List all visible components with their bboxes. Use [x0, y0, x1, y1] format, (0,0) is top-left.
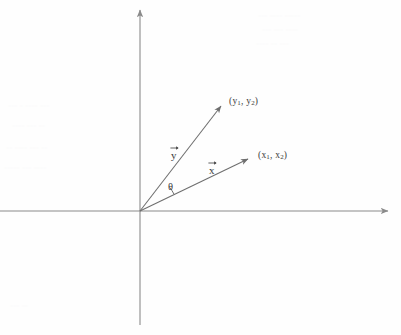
point-label-y: (y1, y2): [229, 96, 258, 107]
paren-close: ): [255, 96, 258, 106]
point-label-x: (x1, x2): [258, 150, 287, 161]
vector-y-glyph: y: [171, 149, 177, 161]
vector-y-label: y: [171, 147, 177, 161]
vector-x-glyph: x: [209, 164, 215, 176]
vector-arrow-accent-icon: [170, 145, 179, 150]
vector-y-arrow: [140, 106, 221, 211]
theta-label: θ: [168, 181, 173, 192]
vector-diagram-svg: [0, 0, 401, 335]
vector-arrow-accent-icon: [208, 160, 217, 165]
paren-close: ): [284, 150, 287, 160]
vector-x-arrow: [140, 159, 248, 211]
figure-canvas: ••• •••• ••••• ••• ••• •••• •••• •• ••• …: [0, 0, 401, 335]
vector-x-label: x: [209, 162, 215, 176]
